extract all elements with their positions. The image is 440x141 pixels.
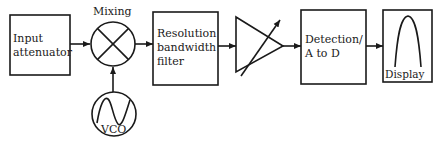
detection-block: Detection/ A to D bbox=[301, 10, 366, 84]
input-attenuator-label-line2: attenuator bbox=[13, 46, 73, 59]
rbw-filter-block: Resolution bandwidth filter bbox=[153, 12, 218, 85]
display-block: Display bbox=[383, 10, 432, 82]
rbw-label-line3: filter bbox=[157, 55, 185, 68]
vco-block: VCO bbox=[92, 92, 136, 136]
vco-label: VCO bbox=[100, 123, 126, 136]
rbw-label-line1: Resolution bbox=[157, 27, 216, 40]
rbw-label-line2: bandwidth bbox=[157, 41, 216, 54]
input-attenuator-block: Input attenuator bbox=[10, 15, 73, 75]
detection-label-line2: A to D bbox=[304, 47, 340, 60]
input-attenuator-label-line1: Input bbox=[13, 32, 44, 45]
amplifier-block bbox=[236, 17, 283, 76]
mixer-label: Mixing bbox=[93, 5, 132, 18]
spectrum-analyzer-block-diagram: Input attenuator Mixing VCO Resolution b… bbox=[0, 0, 440, 141]
mixer-block: Mixing bbox=[91, 5, 135, 66]
detection-label-line1: Detection/ bbox=[305, 33, 363, 46]
display-label: Display bbox=[385, 68, 425, 80]
